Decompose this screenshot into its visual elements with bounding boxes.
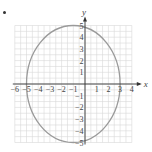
x-tick-label: −3: [46, 85, 55, 94]
x-tick-label: −4: [34, 85, 43, 94]
x-axis-label: x: [143, 79, 148, 89]
x-tick-label: −6: [11, 85, 20, 94]
x-tick-label: 1: [95, 85, 99, 94]
x-tick-label: −2: [57, 85, 66, 94]
y-tick-label: 3: [80, 45, 84, 54]
y-tick-label: −3: [75, 115, 84, 124]
y-tick-label: 5: [80, 22, 84, 31]
x-tick-label: 3: [118, 85, 122, 94]
x-axis-arrow-icon: [137, 82, 142, 86]
y-tick-label: 2: [80, 57, 84, 66]
y-tick-label: 1: [80, 68, 84, 77]
y-tick-label: −2: [75, 103, 84, 112]
y-tick-label: −1: [75, 92, 84, 101]
x-tick-label: −5: [22, 85, 31, 94]
y-tick-label: −5: [75, 139, 84, 148]
ellipse-graph: xy−6−5−4−3−2−11234−5−4−3−2−112345: [0, 0, 152, 152]
y-tick-label: −4: [75, 127, 84, 136]
x-tick-label: 4: [130, 85, 134, 94]
y-tick-label: 4: [80, 33, 84, 42]
y-axis-arrow-icon: [83, 17, 87, 22]
x-tick-label: 2: [106, 85, 110, 94]
y-axis-label: y: [81, 7, 86, 17]
